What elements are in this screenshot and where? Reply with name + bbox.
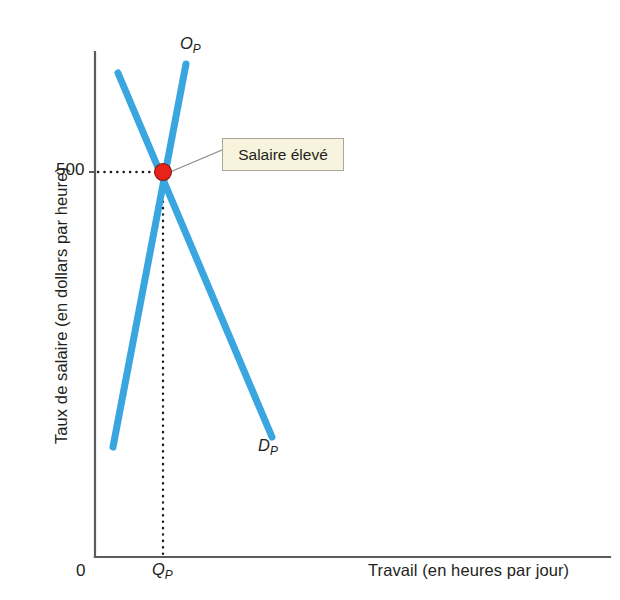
y-axis-tick-label-500: 500 [56, 160, 84, 180]
x-axis-title: Travail (en heures par jour) [368, 561, 569, 580]
qp-subscript: P [165, 568, 173, 582]
supply-base: O [180, 34, 193, 52]
demand-base: D [258, 436, 270, 454]
callout-text: Salaire élevé [238, 146, 328, 164]
economics-supply-demand-chart: Taux de salaire (en dollars par heure) T… [0, 0, 620, 600]
supply-curve-label: OP [180, 34, 201, 56]
y-axis-title: Taux de salaire (en dollars par heure) [52, 141, 71, 471]
origin-label: 0 [76, 561, 85, 581]
x-axis-tick-label-qp: QP [152, 560, 173, 582]
supply-curve [113, 64, 186, 447]
supply-subscript: P [193, 42, 201, 56]
callout-leader-line [170, 150, 222, 172]
salaire-eleve-callout: Salaire élevé [222, 138, 344, 171]
equilibrium-point-marker [155, 164, 172, 181]
demand-curve-label: DP [258, 436, 278, 458]
qp-base: Q [152, 560, 165, 578]
demand-subscript: P [270, 444, 278, 458]
demand-curve [118, 73, 272, 437]
chart-plot-area [0, 0, 620, 600]
